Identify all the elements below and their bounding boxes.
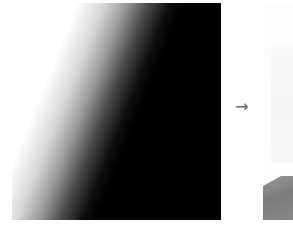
- gradient-fill: [12, 3, 221, 220]
- input-gradient-image: [12, 3, 221, 220]
- arrow-right-icon: →: [230, 100, 254, 114]
- output-rock-region: [263, 176, 293, 220]
- output-haze: [271, 43, 293, 163]
- output-image: [263, 3, 293, 220]
